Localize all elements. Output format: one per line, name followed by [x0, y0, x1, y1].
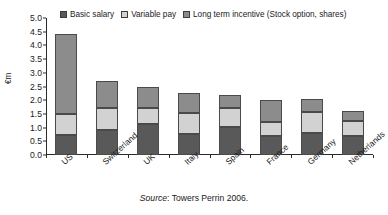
bar-segment-variable-pay	[260, 122, 282, 136]
bar-segment-variable-pay	[342, 121, 364, 135]
bar-us	[55, 18, 77, 155]
x-axis-tick-mark	[87, 155, 88, 158]
y-axis-tick-mark	[43, 18, 46, 19]
y-axis-tick-mark	[43, 86, 46, 87]
bar-segment-long-term-incentive	[219, 95, 241, 108]
y-axis-tick-mark	[43, 31, 46, 32]
bar-segment-long-term-incentive	[178, 93, 200, 112]
bar-france	[260, 18, 282, 155]
source-note-text: : Towers Perrin 2006.	[167, 193, 248, 203]
y-axis-tick-mark	[43, 72, 46, 73]
bar-segment-long-term-incentive	[260, 100, 282, 122]
bar-italy	[178, 18, 200, 155]
bar-segment-variable-pay	[137, 108, 159, 123]
y-axis-tick-mark	[43, 141, 46, 142]
source-note: Source: Towers Perrin 2006.	[0, 193, 388, 203]
y-axis-tick-mark	[43, 113, 46, 114]
bar-segment-long-term-incentive	[96, 81, 118, 108]
x-axis-tick-mark	[250, 155, 251, 158]
legend-swatch-long-term-incentive	[183, 11, 190, 18]
y-axis-tick-mark	[43, 127, 46, 128]
bar-segment-basic-salary	[137, 124, 159, 156]
y-axis-line	[46, 18, 47, 155]
x-axis-tick-mark	[128, 155, 129, 158]
bar-spain	[219, 18, 241, 155]
stacked-bar-chart: Basic salary Variable pay Long term ince…	[0, 0, 388, 215]
y-axis-tick-mark	[43, 100, 46, 101]
plot-area: 0.00.51.01.52.02.53.03.54.04.55.0	[46, 18, 373, 155]
bar-segment-variable-pay	[219, 108, 241, 127]
bar-segment-long-term-incentive	[342, 111, 364, 121]
x-axis-tick-mark	[210, 155, 211, 158]
y-axis-tick-mark	[43, 45, 46, 46]
x-axis-tick-mark	[46, 155, 47, 158]
bar-segment-variable-pay	[55, 114, 77, 135]
bar-segment-long-term-incentive	[55, 34, 77, 114]
bar-uk	[137, 18, 159, 155]
x-axis-tick-mark	[373, 155, 374, 158]
bar-segment-long-term-incentive	[301, 99, 323, 112]
y-axis-title: €m	[4, 73, 13, 84]
bar-segment-variable-pay	[301, 112, 323, 134]
x-axis-tick-mark	[291, 155, 292, 158]
bar-switzerland	[96, 18, 118, 155]
source-note-prefix: Source	[140, 193, 167, 203]
x-axis-tick-mark	[332, 155, 333, 158]
y-axis-tick-mark	[43, 59, 46, 60]
bar-segment-long-term-incentive	[137, 87, 159, 109]
bar-segment-variable-pay	[178, 113, 200, 135]
bar-netherlands	[342, 18, 364, 155]
x-axis-tick-mark	[169, 155, 170, 158]
legend-swatch-basic-salary	[60, 11, 67, 18]
legend-swatch-variable-pay	[121, 11, 128, 18]
bar-segment-variable-pay	[96, 108, 118, 130]
bar-germany	[301, 18, 323, 155]
